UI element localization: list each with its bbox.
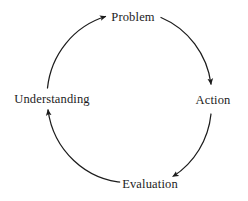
- node-label-understanding: Understanding: [12, 92, 92, 107]
- arc-evaluation-to-understanding: [48, 110, 125, 183]
- arc-understanding-to-problem: [48, 17, 106, 89]
- node-label-action: Action: [194, 93, 233, 108]
- node-label-problem: Problem: [109, 10, 156, 25]
- cycle-diagram: Problem Action Evaluation Understanding: [0, 0, 248, 201]
- node-label-evaluation: Evaluation: [120, 177, 180, 192]
- arc-problem-to-action: [161, 18, 211, 85]
- arc-action-to-evaluation: [173, 114, 211, 177]
